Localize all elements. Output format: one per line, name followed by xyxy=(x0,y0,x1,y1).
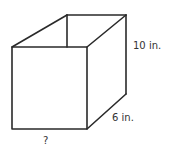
top-left-edge xyxy=(12,15,67,47)
top-right-edge xyxy=(87,15,126,47)
width-label: ? xyxy=(43,135,48,146)
height-label: 10 in. xyxy=(133,40,161,51)
depth-label: 6 in. xyxy=(112,112,134,123)
rectangular-prism-diagram: 10 in. 6 in. ? xyxy=(0,0,170,150)
front-face xyxy=(12,47,87,129)
